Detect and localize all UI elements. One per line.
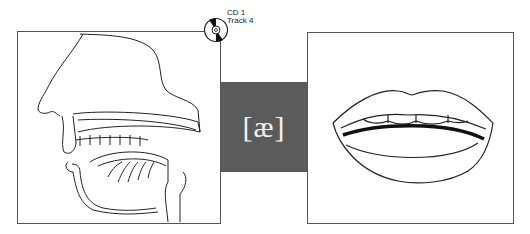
- open-mouth-lips-icon: [308, 33, 512, 222]
- lips-illustration-panel: [307, 32, 514, 224]
- track-number: Track 4: [227, 17, 253, 25]
- phonetic-symbol-box: [æ]: [221, 82, 307, 172]
- cd-disc-icon: [203, 17, 229, 43]
- vocal-tract-illustration-panel: [17, 31, 221, 224]
- cd-track-label: CD 1 Track 4: [227, 9, 253, 25]
- phonetic-symbol: [æ]: [243, 110, 286, 144]
- vocal-tract-diagram-icon: [18, 32, 219, 222]
